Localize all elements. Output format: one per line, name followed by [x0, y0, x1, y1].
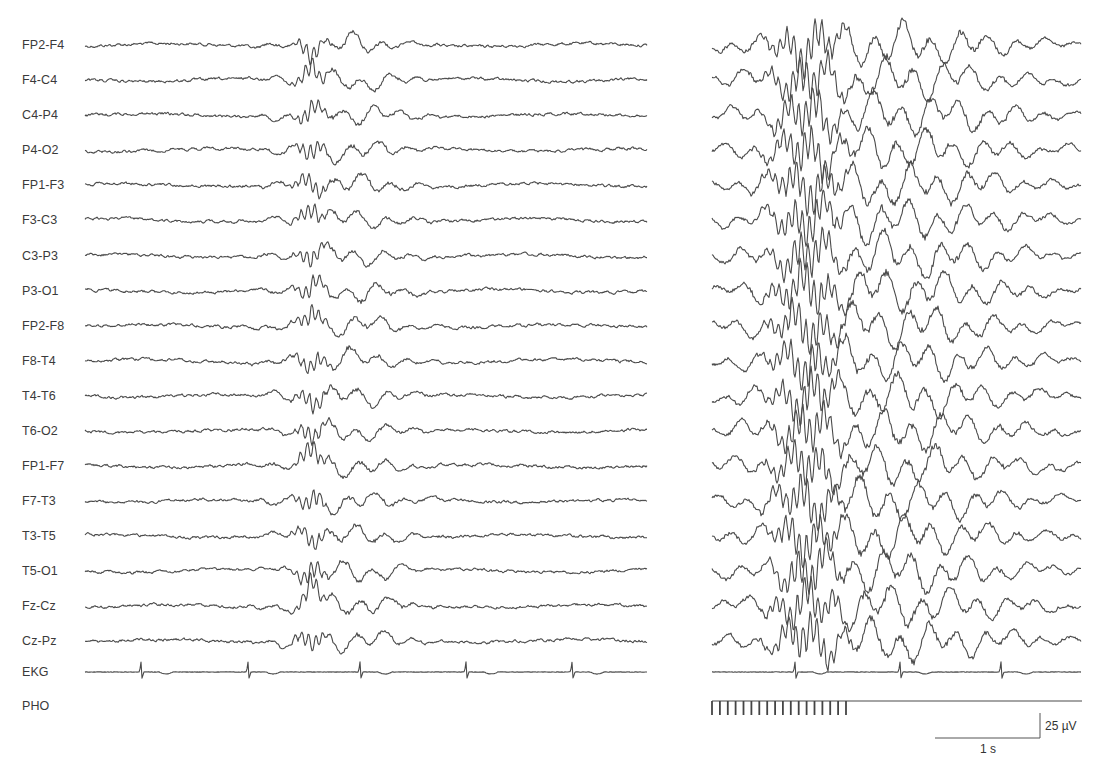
trace-fp1-f3-left — [85, 173, 647, 199]
trace-f4-c4-left — [85, 58, 647, 92]
trace-c4-p4-right — [712, 87, 1081, 144]
trace-p4-o2-left — [85, 141, 647, 165]
trace-f7-t3-right — [712, 474, 1081, 530]
left-panel-traces — [85, 30, 647, 678]
trace-f8-t4-left — [85, 346, 647, 374]
right-panel-traces — [712, 18, 1081, 678]
trace-p3-o1-right — [712, 258, 1081, 316]
trace-f4-c4-right — [712, 50, 1081, 104]
trace-p3-o1-left — [85, 275, 647, 304]
trace-f8-t4-right — [712, 333, 1081, 390]
trace-ekg-left — [85, 662, 647, 678]
trace-fp1-f7-left — [85, 442, 647, 479]
trace-t3-t5-right — [712, 513, 1081, 568]
trace-f3-c3-left — [85, 204, 647, 229]
trace-t4-t6-right — [712, 366, 1081, 425]
trace-f7-t3-left — [85, 490, 647, 515]
amplitude-scale-label: 25 µV — [1045, 719, 1077, 733]
trace-t5-o1-left — [85, 561, 647, 586]
trace-fp2-f4-left — [85, 30, 647, 65]
trace-fp1-f7-right — [712, 440, 1081, 495]
trace-f3-c3-right — [712, 190, 1081, 246]
trace-ekg-right — [712, 662, 1081, 678]
trace-fp2-f8-left — [85, 305, 647, 337]
trace-t3-t5-left — [85, 524, 647, 549]
trace-cz-pz-left — [85, 631, 647, 654]
trace-t4-t6-left — [85, 385, 647, 414]
trace-cz-pz-right — [712, 612, 1081, 672]
trace-t6-o2-right — [712, 400, 1081, 459]
time-scale-label: 1 s — [980, 742, 996, 756]
photic-stimulation-marker — [712, 701, 1082, 715]
trace-fp2-f8-right — [712, 297, 1081, 354]
trace-c3-p3-left — [85, 242, 647, 267]
trace-t5-o1-right — [712, 537, 1081, 594]
scale-bar — [935, 713, 1040, 738]
trace-t6-o2-left — [85, 418, 647, 446]
trace-fz-cz-right — [712, 576, 1081, 632]
trace-fp1-f3-right — [712, 161, 1081, 216]
eeg-traces — [0, 0, 1096, 766]
trace-c4-p4-left — [85, 100, 647, 126]
trace-fz-cz-left — [85, 573, 647, 615]
trace-c3-p3-right — [712, 227, 1081, 283]
trace-fp2-f4-right — [712, 18, 1081, 79]
